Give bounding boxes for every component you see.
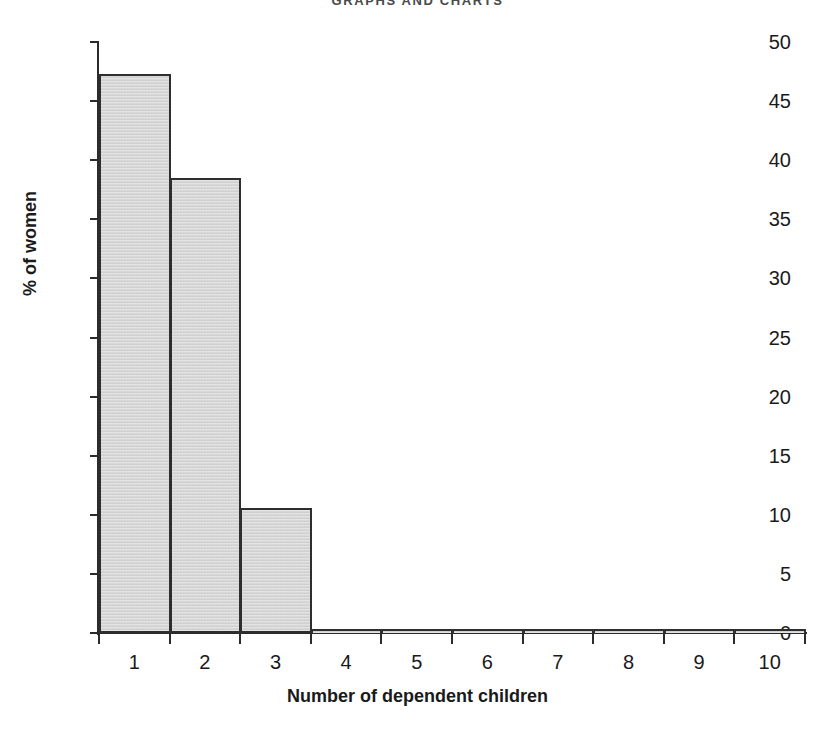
bar xyxy=(593,629,665,633)
y-axis-tick xyxy=(90,455,99,457)
x-axis-tick xyxy=(380,633,382,644)
x-axis-tick xyxy=(310,633,312,644)
y-axis-tick xyxy=(90,159,99,161)
y-axis-tick xyxy=(90,277,99,279)
y-axis-tick-label: 0 xyxy=(780,622,791,645)
x-axis-tick-label: 2 xyxy=(199,651,210,674)
bar xyxy=(170,178,242,633)
x-axis-tick-label: 3 xyxy=(270,651,281,674)
x-axis-tick-label: 6 xyxy=(482,651,493,674)
y-axis-tick-label: 35 xyxy=(769,208,791,231)
y-axis-tick xyxy=(90,573,99,575)
y-axis-tick xyxy=(90,218,99,220)
y-axis-tick xyxy=(90,337,99,339)
x-axis-tick xyxy=(592,633,594,644)
x-axis-tick-label: 1 xyxy=(129,651,140,674)
y-axis-tick-label: 15 xyxy=(769,444,791,467)
x-axis-tick-label: 8 xyxy=(623,651,634,674)
y-axis-tick-label: 40 xyxy=(769,149,791,172)
x-axis-tick-label: 5 xyxy=(411,651,422,674)
bar xyxy=(240,508,312,633)
x-axis-tick xyxy=(169,633,171,644)
y-axis-tick-label: 10 xyxy=(769,503,791,526)
histogram-figure: 05101520253035404550 12345678910 % of wo… xyxy=(0,0,835,733)
y-axis-tick-label: 30 xyxy=(769,267,791,290)
bar xyxy=(311,629,383,633)
bar xyxy=(381,629,453,633)
x-axis-tick xyxy=(522,633,524,644)
plot-area: 05101520253035404550 12345678910 xyxy=(99,42,805,633)
x-axis-title: Number of dependent children xyxy=(0,686,835,707)
y-axis-tick-label: 25 xyxy=(769,326,791,349)
x-axis-tick-label: 9 xyxy=(694,651,705,674)
y-axis-tick-label: 5 xyxy=(780,562,791,585)
x-axis-tick xyxy=(804,633,806,644)
x-axis-tick xyxy=(733,633,735,644)
y-axis-title: % of women xyxy=(20,191,41,296)
bar xyxy=(99,74,171,633)
x-axis-tick xyxy=(98,633,100,644)
y-axis-tick xyxy=(90,100,99,102)
x-axis-tick xyxy=(451,633,453,644)
x-axis-tick-label: 4 xyxy=(341,651,352,674)
x-axis-tick xyxy=(239,633,241,644)
x-axis-tick xyxy=(663,633,665,644)
bar xyxy=(734,629,806,633)
y-axis-tick xyxy=(90,41,99,43)
y-axis-tick-label: 20 xyxy=(769,385,791,408)
y-axis-tick xyxy=(90,514,99,516)
bar xyxy=(664,629,736,633)
bar xyxy=(452,629,524,633)
x-axis-tick-label: 10 xyxy=(759,651,781,674)
y-axis-tick-label: 50 xyxy=(769,31,791,54)
x-axis-tick-label: 7 xyxy=(552,651,563,674)
bar xyxy=(523,629,595,633)
y-axis-tick xyxy=(90,396,99,398)
y-axis-tick-label: 45 xyxy=(769,90,791,113)
